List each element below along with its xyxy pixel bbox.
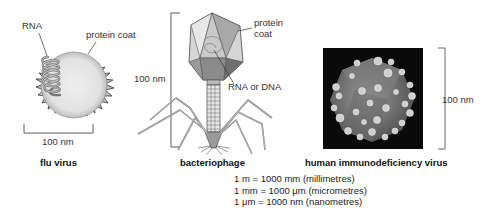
bacteriophage-caption: bacteriophage (180, 157, 245, 168)
phage-protein-coat-label-line2: coat (254, 28, 272, 39)
phage-protein-coat-label-line1: protein (254, 17, 283, 28)
flu-virus-illustration (24, 33, 114, 133)
flu-scale-label: 100 nm (42, 136, 74, 147)
unit-conversions: 1 m = 1000 mm (millimetres) 1 mm = 1000 … (234, 173, 367, 208)
conversion-mm-um: 1 mm = 1000 μm (micrometres) (234, 185, 367, 197)
flu-protein-coat-label: protein coat (86, 29, 136, 40)
phage-genome-label: RNA or DNA (228, 81, 281, 92)
flu-virus-caption: flu virus (40, 157, 77, 168)
flu-rna-label: RNA (22, 20, 42, 31)
hiv-scale-label: 100 nm (442, 94, 474, 105)
conversion-um-nm: 1 μm = 1000 nm (nanometres) (234, 196, 367, 208)
hiv-caption: human immunodeficiency virus (305, 157, 448, 168)
conversion-m-mm: 1 m = 1000 mm (millimetres) (234, 173, 367, 185)
hiv-illustration (323, 48, 445, 149)
phage-scale-label: 100 nm (134, 73, 166, 84)
